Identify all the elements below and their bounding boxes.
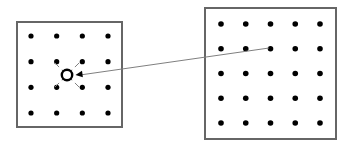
lattice-dot — [218, 46, 224, 52]
lattice-dot — [292, 46, 298, 52]
lattice-dot — [28, 59, 33, 64]
lattice-dot — [218, 120, 224, 126]
lattice-dot — [54, 110, 59, 115]
lattice-dot — [317, 120, 323, 126]
lattice-dot — [243, 71, 249, 77]
figure-svg — [0, 0, 346, 149]
lattice-dot — [317, 95, 323, 101]
lattice-dot — [218, 71, 224, 77]
lattice-dot — [292, 21, 298, 27]
lattice-dot — [317, 71, 323, 77]
lattice-dot — [218, 95, 224, 101]
lattice-dot — [243, 120, 249, 126]
center-ring-marker — [62, 70, 72, 80]
lattice-dot — [105, 33, 110, 38]
lattice-dot — [268, 71, 274, 77]
lattice-dot — [28, 110, 33, 115]
lattice-dot — [317, 21, 323, 27]
lattice-dot — [28, 85, 33, 90]
lattice-dot — [243, 95, 249, 101]
lattice-dot — [268, 120, 274, 126]
lattice-dot — [80, 85, 85, 90]
lattice-dot — [243, 21, 249, 27]
figure-canvas — [0, 0, 346, 149]
lattice-dot — [80, 110, 85, 115]
lattice-dot — [292, 120, 298, 126]
lattice-dot — [268, 95, 274, 101]
lattice-dot — [105, 110, 110, 115]
lattice-dot — [292, 71, 298, 77]
lattice-dot — [28, 33, 33, 38]
lattice-dot — [80, 59, 85, 64]
lattice-dot — [292, 95, 298, 101]
lattice-dot — [54, 33, 59, 38]
lattice-dot — [80, 33, 85, 38]
lattice-dot — [105, 85, 110, 90]
lattice-dot — [317, 46, 323, 52]
lattice-dot — [105, 59, 110, 64]
lattice-dot — [268, 21, 274, 27]
lattice-dot — [218, 21, 224, 27]
lattice-dot — [268, 46, 274, 52]
